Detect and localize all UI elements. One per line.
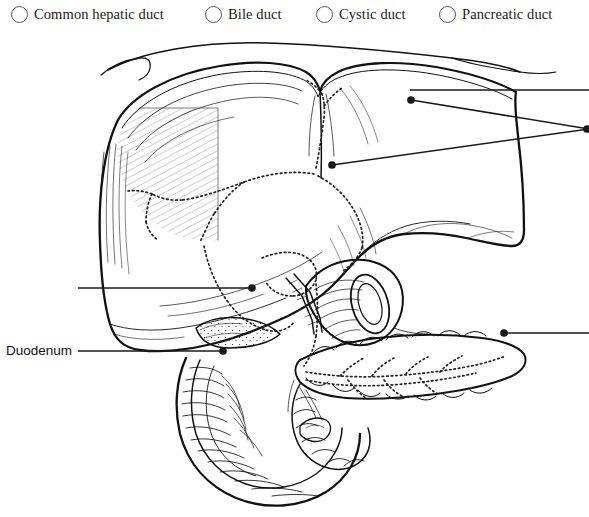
option-label: Bile duct <box>228 0 282 28</box>
option-common-hepatic-duct[interactable]: Common hepatic duct <box>11 0 164 28</box>
leader-line-duodenum <box>78 348 226 354</box>
option-bile-duct[interactable]: Bile duct <box>205 0 282 28</box>
anatomy-figure <box>0 28 589 517</box>
radio-circle-icon[interactable] <box>439 6 456 23</box>
option-label: Cystic duct <box>339 0 406 28</box>
radio-circle-icon[interactable] <box>205 6 222 23</box>
radio-circle-icon[interactable] <box>316 6 333 23</box>
leader-line-right-lower <box>329 129 589 168</box>
label-duodenum: Duodenum <box>6 343 72 358</box>
leader-line-right-pancreas <box>501 330 589 336</box>
leader-line-right-upper <box>408 97 589 129</box>
option-label: Pancreatic duct <box>462 0 552 28</box>
leader-line-left-upper <box>78 285 255 291</box>
option-cystic-duct[interactable]: Cystic duct <box>316 0 406 28</box>
option-pancreatic-duct[interactable]: Pancreatic duct <box>439 0 552 28</box>
leader-convergence-dot <box>584 126 589 132</box>
option-label: Common hepatic duct <box>34 0 164 28</box>
radio-circle-icon[interactable] <box>11 6 28 23</box>
duct-options-bar: Common hepatic duct Bile duct Cystic duc… <box>0 0 589 28</box>
